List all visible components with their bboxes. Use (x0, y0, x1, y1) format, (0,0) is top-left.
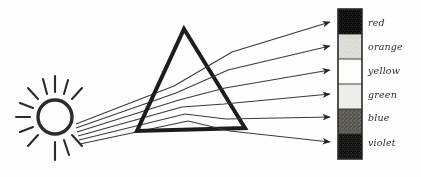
spectrum-band-texture-green (338, 84, 362, 109)
spectrum-band-texture-orange (338, 34, 362, 59)
ray-yellow (179, 70, 330, 100)
spectrum-bar (338, 9, 362, 159)
sun-icon (16, 76, 82, 160)
spectrum-band-texture-red (338, 9, 362, 34)
spectrum-band-texture-yellow (338, 59, 362, 84)
diagram-canvas: redorangeyellowgreenblueviolet (0, 0, 421, 177)
prism-dispersion-figure: redorangeyellowgreenblueviolet (0, 0, 421, 177)
spectrum-label-green: green (368, 89, 397, 100)
spectrum-label-red: red (368, 17, 385, 28)
ray-green (182, 94, 330, 107)
spectrum-label-violet: violet (368, 137, 396, 148)
spectrum-label-orange: orange (368, 41, 403, 52)
spectrum-band-texture-blue (338, 109, 362, 134)
spectrum-band-texture-violet (338, 134, 362, 159)
refracted-rays (174, 22, 330, 142)
spectrum-label-blue: blue (368, 112, 390, 123)
spectrum-label-yellow: yellow (367, 65, 400, 76)
spectrum-labels: redorangeyellowgreenblueviolet (367, 17, 403, 148)
ray-blue (185, 114, 330, 119)
prism-triangle (137, 29, 245, 131)
prism-outline (137, 29, 245, 131)
ray-violet (188, 121, 330, 142)
sun-disc (38, 100, 72, 134)
incident-light-rays (76, 86, 188, 144)
